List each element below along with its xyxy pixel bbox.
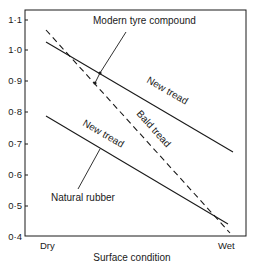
y-tick-label: 0·7	[8, 138, 22, 149]
y-tick-label: 0·4	[8, 231, 22, 242]
y-tick-label: 0·5	[8, 200, 22, 211]
skid-resistance-chart: 1·1 1·0 0·9 0·8 0·7 0·6 0·5 0·4 Dry Wet …	[0, 0, 254, 267]
leader-natural-rubber	[78, 149, 100, 189]
label-modern-new-tread: New tread	[145, 74, 190, 106]
label-natural-rubber: Natural rubber	[51, 192, 116, 203]
y-tick-label: 0·8	[8, 106, 22, 117]
label-bald-tread: Bald tread	[135, 108, 174, 149]
label-natural-new-tread: New tread	[81, 117, 126, 149]
y-tick-label: 1·0	[8, 44, 22, 55]
x-label-dry: Dry	[40, 240, 55, 251]
label-modern-compound: Modern tyre compound	[93, 15, 196, 26]
line-modern-new-tread	[46, 42, 233, 152]
y-tick-label: 1·1	[8, 14, 22, 25]
y-tick-label: 0·6	[8, 169, 22, 180]
y-tick-label: 0·9	[8, 75, 22, 86]
x-label-wet: Wet	[218, 240, 235, 251]
leader-modern-compound	[95, 32, 126, 83]
x-axis-title: Surface condition	[93, 252, 170, 263]
line-natural-new-tread	[46, 116, 228, 224]
leader-dot	[98, 71, 101, 74]
leader-dot	[93, 81, 96, 84]
